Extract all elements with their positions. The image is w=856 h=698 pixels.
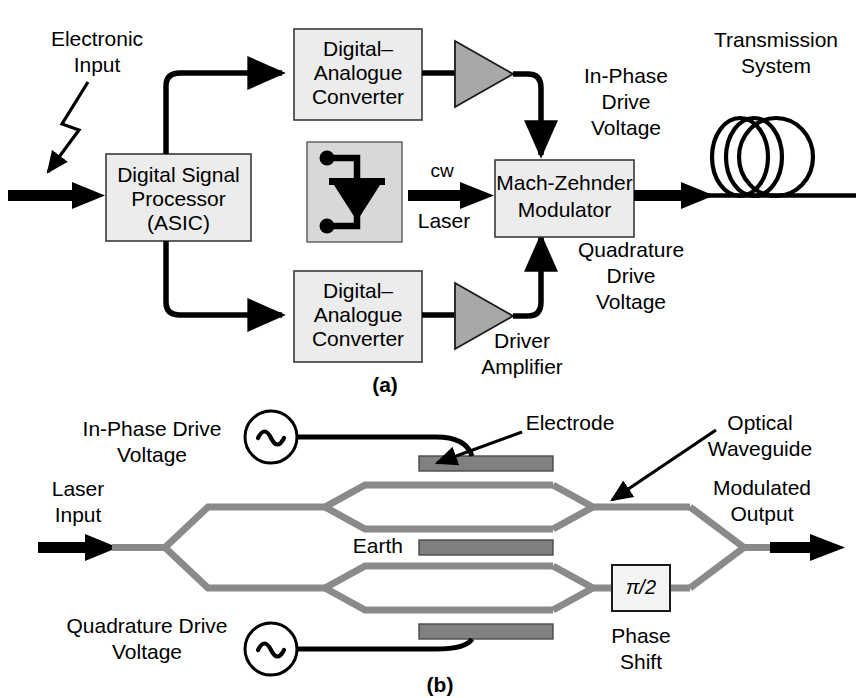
panel-a-caption: (a) [372,373,398,396]
in-phase-drive-voltage-label-line1: In-Phase [584,64,668,87]
laser-label: Laser [418,209,471,232]
mzm-line-1: Mach-Zehnder [496,171,633,194]
cw-label: cw [430,160,454,181]
dac-upper-line-2: Analogue [314,61,403,84]
driver-amplifier-label-line2: Amplifier [481,355,563,378]
phase-shift-label-line2: Shift [620,650,662,673]
laser-terminal-bottom-icon [320,219,335,234]
electrode-quadrature-drive [419,624,553,639]
b-in-phase-drive-voltage-line2: Voltage [117,443,187,466]
figure-canvas: Electronic Input Digital Signal Processo… [0,0,856,698]
transmission-system-label-line2: System [741,54,811,77]
dac-upper-line-3: Converter [312,85,404,108]
modulated-output-line2: Output [730,502,793,525]
laser-terminal-top-icon [320,151,335,166]
driver-amplifier-label-line1: Driver [494,329,550,352]
figure-root: Electronic Input Digital Signal Processo… [0,0,856,698]
electronic-input-label-line2: Input [74,53,121,76]
phase-shift-value: π/2 [626,576,656,598]
panel-b-caption: (b) [427,673,454,696]
laser-diode-block [307,142,402,242]
modulated-output-line1: Modulated [713,476,811,499]
in-phase-drive-voltage-label-line2: Drive [601,90,650,113]
quadrature-drive-voltage-label-line2: Drive [606,264,655,287]
laser-diode-bar-icon [329,178,385,185]
canvas-background [0,0,856,698]
dsp-line-3: (ASIC) [147,211,210,234]
dsp-line-2: Processor [131,187,226,210]
phase-shift-block: π/2 [612,565,670,611]
electrode-earth [419,540,553,555]
b-quadrature-drive-voltage-line2: Voltage [112,640,182,663]
ac-source-quadrature [245,623,297,675]
digital-analogue-converter-upper-block: Digital– Analogue Converter [294,29,422,120]
earth-label: Earth [353,534,403,557]
b-in-phase-drive-voltage-line1: In-Phase Drive [83,417,222,440]
optical-waveguide-callout-line2: Waveguide [708,437,812,460]
dsp-line-1: Digital Signal [117,163,240,186]
optical-waveguide-callout-line1: Optical [727,411,792,434]
digital-analogue-converter-lower-block: Digital– Analogue Converter [294,271,422,362]
transmission-system-label-line1: Transmission [714,28,838,51]
dac-lower-line-2: Analogue [314,303,403,326]
quadrature-drive-voltage-label-line1: Quadrature [578,238,684,261]
mach-zehnder-modulator-block: Mach-Zehnder Modulator [495,160,634,237]
phase-shift-label-line1: Phase [611,624,671,647]
mzm-line-2: Modulator [518,198,611,221]
electrode-callout-label: Electrode [526,411,615,434]
electronic-input-label-line1: Electronic [51,27,143,50]
dac-lower-line-1: Digital– [323,279,393,302]
in-phase-drive-voltage-label-line3: Voltage [591,116,661,139]
ac-source-in-phase [245,411,297,463]
b-quadrature-drive-voltage-line1: Quadrature Drive [66,614,227,637]
dac-upper-line-1: Digital– [323,37,393,60]
quadrature-drive-voltage-label-line3: Voltage [596,290,666,313]
b-laser-input-line2: Input [55,503,102,526]
digital-signal-processor-block: Digital Signal Processor (ASIC) [106,154,251,241]
b-laser-input-line1: Laser [52,477,105,500]
dac-lower-line-3: Converter [312,327,404,350]
